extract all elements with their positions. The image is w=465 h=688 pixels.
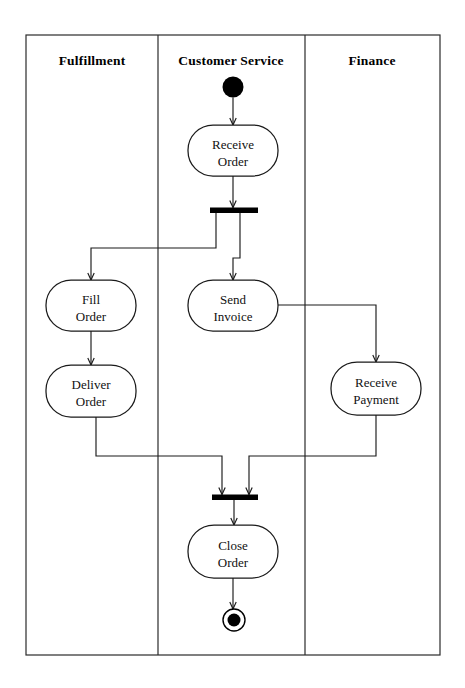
activity-fill-order[interactable]: Fill Order <box>46 280 136 331</box>
activity-fill-order-label-line1: Fill <box>82 292 100 307</box>
activity-send-invoice-label-line1: Send <box>220 292 247 307</box>
lane-title-finance: Finance <box>348 53 395 68</box>
activity-receive-payment[interactable]: Receive Payment <box>331 362 421 415</box>
activity-send-invoice-label-line2: Invoice <box>214 309 253 324</box>
activity-close-order-label-line2: Order <box>218 555 249 570</box>
activity-deliver-order-label-line2: Order <box>76 394 107 409</box>
activity-diagram-canvas: Fulfillment Customer Service Finance Rec… <box>0 0 465 688</box>
uml-activity-diagram: Fulfillment Customer Service Finance Rec… <box>0 0 465 688</box>
activity-receive-order-label-line2: Order <box>218 154 249 169</box>
activity-fill-order-label-line2: Order <box>76 309 107 324</box>
final-node-inner-disc[interactable] <box>228 614 241 627</box>
join-bar[interactable] <box>212 495 258 501</box>
activity-receive-payment-label-line2: Payment <box>353 392 399 407</box>
activity-receive-order-label-line1: Receive <box>212 137 254 152</box>
final-node[interactable] <box>223 609 245 631</box>
fork-bar[interactable] <box>210 208 258 214</box>
activity-send-invoice[interactable]: Send Invoice <box>188 280 278 331</box>
lane-title-fulfillment: Fulfillment <box>59 53 126 68</box>
activity-deliver-order[interactable]: Deliver Order <box>46 365 136 417</box>
lane-title-customer-service: Customer Service <box>178 53 283 68</box>
activity-close-order[interactable]: Close Order <box>188 525 278 578</box>
activity-deliver-order-label-line1: Deliver <box>72 377 112 392</box>
activity-receive-order[interactable]: Receive Order <box>188 125 278 176</box>
activity-close-order-label-line1: Close <box>218 538 248 553</box>
initial-node[interactable] <box>223 77 244 98</box>
activity-receive-payment-label-line1: Receive <box>355 375 397 390</box>
